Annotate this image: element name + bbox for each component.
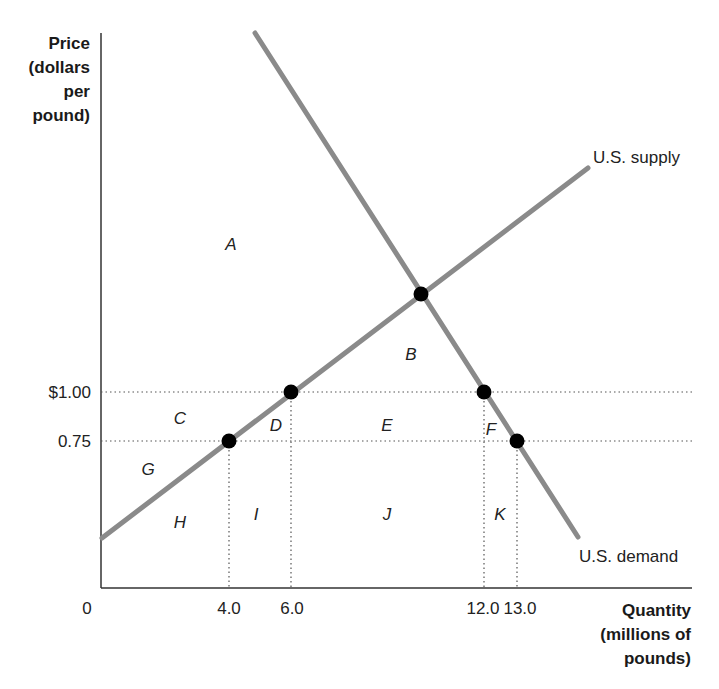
y-title-line-3: per — [64, 82, 91, 101]
region-a-label: A — [224, 235, 236, 254]
y-title-line-2: (dollars — [29, 58, 90, 77]
region-e-label: E — [381, 416, 393, 435]
point-q6-p100 — [284, 385, 299, 400]
marked-points — [222, 287, 525, 449]
region-d-label: D — [270, 416, 282, 435]
supply-curve — [102, 168, 588, 538]
x-title-line-3: pounds) — [624, 649, 691, 668]
y-title-line-1: Price — [48, 34, 90, 53]
x-title-line-1: Quantity — [622, 601, 691, 620]
y-tick-0-75: 0.75 — [58, 432, 91, 451]
point-q13-p075 — [510, 434, 525, 449]
point-q4-p075 — [222, 434, 237, 449]
x-tick-13: 13.0 — [503, 599, 536, 618]
x-title-line-2: (millions of — [600, 625, 691, 644]
supply-label: U.S. supply — [593, 148, 680, 167]
y-axis-title: Price (dollars per pound) — [29, 34, 91, 125]
region-b-label: B — [405, 345, 416, 364]
x-tick-4: 4.0 — [217, 599, 241, 618]
demand-label: U.S. demand — [579, 547, 678, 566]
tariff-supply-demand-chart: U.S. supply U.S. demand Price (dollars p… — [0, 0, 719, 689]
region-j-label: J — [382, 505, 392, 524]
region-labels: A B C D E F G H I J K — [141, 235, 506, 532]
point-equilibrium — [414, 287, 429, 302]
y-title-line-4: pound) — [32, 106, 90, 125]
region-i-label: I — [254, 505, 259, 524]
demand-curve — [255, 33, 578, 537]
region-g-label: G — [141, 460, 154, 479]
x-axis-title: Quantity (millions of pounds) — [600, 601, 691, 668]
y-tick-1-00: $1.00 — [48, 383, 91, 402]
region-h-label: H — [174, 513, 187, 532]
x-tick-12: 12.0 — [466, 599, 499, 618]
point-q12-p100 — [477, 385, 492, 400]
region-c-label: C — [174, 409, 187, 428]
x-tick-6: 6.0 — [280, 599, 304, 618]
x-origin-label: 0 — [82, 599, 91, 618]
region-k-label: K — [494, 505, 506, 524]
region-f-label: F — [486, 420, 498, 439]
